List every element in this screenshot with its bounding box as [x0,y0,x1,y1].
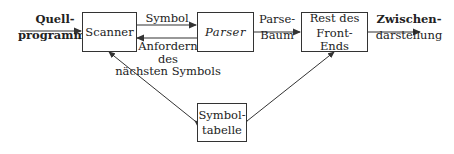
parser-label: Parser [205,26,246,39]
output-label: Zwischen- darstellung [366,13,452,41]
rest-symtab-arrow [247,52,334,121]
request-label: Anfordern des [133,40,203,65]
request-label-line1: Anfordern [133,40,203,53]
symbol-table-box: Symbol- tabelle [197,103,247,142]
request-label-line3: nächsten Symbols [113,65,223,78]
scanner-label: Scanner [85,26,133,39]
input-label-line2: programm [18,29,82,42]
parse-tree-label: Parse- Baum [254,13,300,41]
input-label: Quell- programm [18,13,82,41]
symbol-label: Symbol [140,12,194,25]
rest-front-end-line2: Front-Ends [302,27,367,53]
input-label-line1: Quell- [18,13,82,26]
rest-front-end-box: Rest des Front-Ends [301,12,368,52]
parse-tree-label-line1: Parse- [254,13,300,26]
parser-box: Parser [197,12,254,52]
symbol-table-line1: Symbol- [198,109,245,122]
output-label-line1: Zwischen- [366,13,452,26]
scanner-box: Scanner [82,12,137,52]
output-label-line2: darstellung [366,29,452,42]
rest-front-end-line1: Rest des [302,12,367,25]
parse-tree-label-line2: Baum [254,29,300,42]
symbol-table-line2: tabelle [198,124,245,137]
